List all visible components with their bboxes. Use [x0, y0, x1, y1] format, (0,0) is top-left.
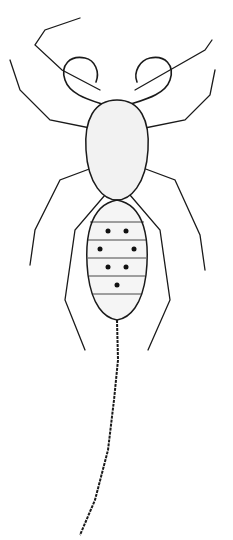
left-leg-2 [10, 60, 100, 130]
left-antenniform-leg [35, 18, 100, 90]
carapace [86, 100, 148, 200]
abdomen [87, 200, 147, 320]
whip-scorpion-illustration [0, 0, 233, 540]
right-leg-2 [135, 70, 215, 130]
right-antenniform-leg [135, 40, 212, 90]
flagellum-tail [80, 320, 118, 535]
